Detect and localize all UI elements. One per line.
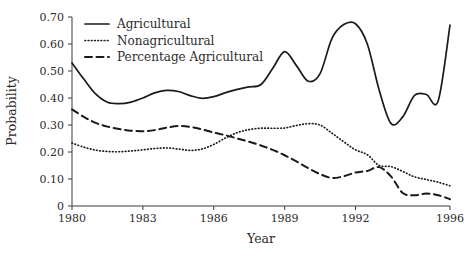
y-tick-label: 0.60: [40, 38, 65, 51]
x-axis-title: Year: [246, 231, 275, 246]
legend-label-nonagricultural: Nonagricultural: [117, 34, 215, 48]
legend-label-agricultural: Agricultural: [116, 17, 191, 31]
x-tick-label: 1983: [129, 212, 157, 225]
y-tick-label: 0.30: [40, 119, 65, 132]
x-tick-labels: 198019831986198919921996: [58, 212, 464, 225]
x-tick-marks: [72, 206, 450, 210]
chart-figure: 00.100.200.300.400.500.600.70 1980198319…: [0, 0, 467, 255]
line-chart: 00.100.200.300.400.500.600.70 1980198319…: [0, 0, 467, 255]
x-tick-label: 1992: [342, 212, 370, 225]
y-axis-title: Probability: [4, 75, 19, 145]
y-tick-label: 0.10: [40, 173, 65, 186]
chart-legend: AgriculturalNonagriculturalPercentage Ag…: [85, 17, 263, 64]
series-group: [72, 22, 450, 199]
y-tick-label: 0: [57, 200, 64, 213]
x-tick-label: 1986: [200, 212, 228, 225]
x-tick-label: 1989: [271, 212, 299, 225]
y-tick-marks: [68, 17, 72, 206]
legend-label-percentage-agricultural: Percentage Agricultural: [117, 50, 263, 64]
y-tick-label: 0.20: [40, 146, 65, 159]
y-tick-label: 0.70: [40, 11, 65, 24]
y-tick-label: 0.40: [40, 92, 65, 105]
series-nonagricultural: [72, 124, 450, 186]
x-tick-label: 1996: [436, 212, 464, 225]
x-tick-label: 1980: [58, 212, 86, 225]
series-percentage-agricultural: [72, 109, 450, 199]
y-tick-labels: 00.100.200.300.400.500.600.70: [40, 11, 65, 213]
y-tick-label: 0.50: [40, 65, 65, 78]
